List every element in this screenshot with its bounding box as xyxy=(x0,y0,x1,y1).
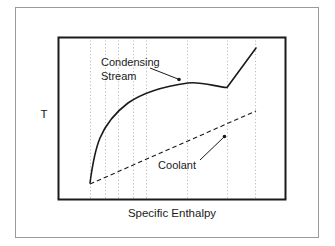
coolant-label: Coolant xyxy=(158,159,196,171)
coolant-leader-dot xyxy=(223,135,227,139)
x-axis-label: Specific Enthalpy xyxy=(128,207,216,219)
condensing-stream-leader-dot xyxy=(177,78,181,82)
plot-area-background xyxy=(58,37,286,200)
temperature-enthalpy-chart: T Specific Enthalpy Condensing Stream Co… xyxy=(0,0,335,246)
y-axis-label: T xyxy=(40,108,47,120)
figure-root: T Specific Enthalpy Condensing Stream Co… xyxy=(0,0,335,246)
condensing-stream-label-line2: Stream xyxy=(101,70,136,82)
condensing-stream-label-line1: Condensing xyxy=(101,56,160,68)
